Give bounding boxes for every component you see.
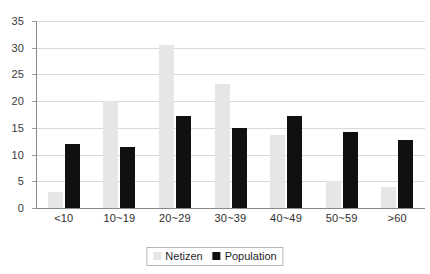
bar-population-3: [232, 128, 247, 208]
bar-netizen-2: [159, 45, 174, 208]
bar-netizen-5: [326, 181, 341, 208]
x-axis-tick-label: 10~19: [103, 212, 135, 224]
y-axis-tick-label: 30: [12, 42, 24, 54]
legend-swatch-icon: [153, 252, 161, 260]
legend-item-netizen: Netizen: [153, 250, 202, 262]
bar-netizen-6: [381, 187, 396, 208]
x-axis-tick-label: 40~49: [270, 212, 302, 224]
chart-legend: Netizen Population: [146, 247, 283, 266]
legend-label: Netizen: [165, 250, 202, 262]
bar-population-0: [65, 144, 80, 208]
bars-layer: [36, 21, 425, 208]
plot-wrapper: 05101520253035 <1010~1920~2930~3940~4950…: [0, 0, 430, 230]
y-axis-tick-label: 20: [12, 95, 24, 107]
x-axis: <1010~1920~2930~3940~4950~59>60: [36, 212, 425, 230]
legend-swatch-icon: [213, 252, 221, 260]
bar-netizen-4: [270, 135, 285, 208]
bar-population-5: [343, 132, 358, 208]
x-axis-line: [36, 208, 425, 209]
y-axis-tick-label: 25: [12, 68, 24, 80]
x-axis-tick-label: 30~39: [215, 212, 247, 224]
bar-population-6: [398, 140, 413, 208]
x-axis-tick-label: 20~29: [159, 212, 191, 224]
y-axis: 05101520253035: [0, 0, 32, 230]
x-axis-tick-label: 50~59: [326, 212, 358, 224]
bar-population-1: [120, 147, 135, 208]
y-axis-tick-label: 15: [12, 122, 24, 134]
bar-population-2: [176, 116, 191, 208]
y-axis-tick-label: 5: [18, 175, 24, 187]
y-axis-tick-label: 10: [12, 149, 24, 161]
bar-chart: 05101520253035 <1010~1920~2930~3940~4950…: [0, 0, 430, 274]
bar-netizen-3: [215, 84, 230, 208]
x-axis-tick-label: >60: [388, 212, 407, 224]
legend-label: Population: [225, 250, 277, 262]
bar-population-4: [287, 116, 302, 208]
x-axis-tick-label: <10: [54, 212, 73, 224]
legend-item-population: Population: [213, 250, 277, 262]
y-axis-tick-label: 0: [18, 202, 24, 214]
y-axis-tick-label: 35: [12, 15, 24, 27]
bar-netizen-0: [48, 192, 63, 208]
bar-netizen-1: [103, 101, 118, 208]
